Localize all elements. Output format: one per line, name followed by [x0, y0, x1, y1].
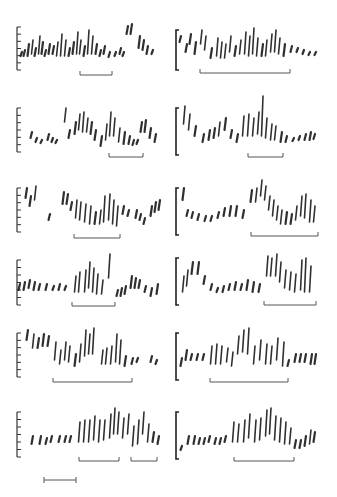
- syllable-mark: [29, 280, 31, 288]
- syllable-mark: [191, 354, 193, 360]
- phrase-bracket: [251, 232, 318, 236]
- syllable-mark: [295, 274, 297, 292]
- syllable-mark: [285, 270, 287, 288]
- syllable-mark: [183, 276, 185, 292]
- syllable-mark: [235, 282, 237, 290]
- syllable-mark: [45, 50, 47, 56]
- syllable-mark: [211, 216, 213, 221]
- syllable-mark: [280, 418, 282, 442]
- sonogram-row-2: [17, 96, 315, 157]
- sonogram-row-4: [17, 254, 316, 306]
- syllable-mark: [110, 414, 112, 438]
- syllable-mark: [310, 430, 312, 444]
- sonogram-row-5: [17, 328, 316, 382]
- syllable-mark: [109, 194, 111, 220]
- syllable-mark: [201, 30, 203, 44]
- syllable-mark: [265, 186, 267, 200]
- syllable-mark: [243, 330, 245, 352]
- syllable-mark: [104, 46, 106, 54]
- syllable-mark: [36, 138, 38, 142]
- syllable-mark: [286, 212, 288, 224]
- syllable-mark: [139, 280, 141, 288]
- syllable-mark: [243, 116, 245, 136]
- syllable-mark: [266, 40, 268, 56]
- sonogram-panel-left: [17, 254, 158, 306]
- panel-bracket: [176, 108, 179, 155]
- panel-bracket: [176, 188, 179, 235]
- syllable-mark: [271, 258, 273, 276]
- syllable-mark: [249, 414, 251, 438]
- syllable-mark: [221, 346, 223, 364]
- syllable-mark: [84, 46, 86, 56]
- syllable-mark: [32, 436, 34, 444]
- syllable-mark: [65, 40, 67, 56]
- syllable-mark: [300, 440, 302, 448]
- syllable-mark: [116, 334, 118, 362]
- syllable-mark: [69, 346, 71, 362]
- syllable-mark: [125, 286, 127, 294]
- syllable-mark: [247, 280, 249, 290]
- syllable-mark: [215, 438, 217, 444]
- syllable-mark: [225, 436, 227, 442]
- syllable-mark: [249, 36, 251, 56]
- syllable-mark: [219, 122, 221, 136]
- syllable-mark: [186, 44, 188, 52]
- syllable-mark: [53, 286, 55, 290]
- syllable-mark: [266, 344, 268, 364]
- syllable-mark: [195, 126, 197, 136]
- syllable-mark: [46, 284, 48, 290]
- syllable-mark: [51, 436, 53, 442]
- syllable-mark: [65, 286, 67, 290]
- syllable-mark: [39, 284, 41, 290]
- phrase-bracket: [131, 457, 157, 461]
- syllable-mark: [237, 134, 239, 142]
- syllable-mark: [70, 436, 72, 442]
- syllable-mark: [209, 436, 211, 442]
- syllable-mark: [135, 278, 137, 288]
- syllable-mark: [100, 50, 102, 56]
- syllable-mark: [255, 420, 257, 442]
- syllable-mark: [69, 48, 71, 56]
- syllable-mark: [266, 118, 268, 138]
- syllable-mark: [123, 52, 125, 56]
- syllable-mark: [245, 32, 247, 54]
- syllable-mark: [151, 206, 153, 216]
- syllable-mark: [267, 256, 269, 276]
- syllable-mark: [60, 350, 62, 364]
- syllable-mark: [248, 328, 250, 354]
- syllable-mark: [220, 438, 222, 444]
- syllable-mark: [80, 40, 82, 54]
- syllable-mark: [218, 212, 220, 218]
- syllable-mark: [26, 188, 28, 198]
- syllable-mark: [71, 202, 73, 210]
- syllable-mark: [244, 420, 246, 442]
- syllable-mark: [275, 126, 277, 140]
- syllable-mark: [198, 262, 200, 274]
- syllable-mark: [21, 52, 23, 56]
- syllable-mark: [34, 282, 36, 290]
- syllable-mark: [80, 344, 82, 362]
- syllable-mark: [152, 50, 154, 54]
- syllable-mark: [57, 42, 59, 56]
- syllable-mark: [67, 194, 69, 204]
- syllable-mark: [243, 210, 245, 218]
- syllable-mark: [314, 432, 316, 442]
- syllable-mark: [111, 346, 113, 364]
- syllable-mark: [295, 440, 297, 448]
- phrase-bracket: [200, 69, 290, 73]
- phrase-bracket: [74, 234, 120, 238]
- syllable-mark: [205, 36, 207, 50]
- syllable-mark: [39, 36, 41, 54]
- syllable-mark: [89, 334, 91, 354]
- syllable-mark: [19, 284, 21, 290]
- sonogram-panel-left: [17, 408, 159, 461]
- syllable-mark: [211, 284, 213, 290]
- sonogram-figure: [0, 0, 337, 497]
- syllable-mark: [153, 432, 155, 442]
- syllable-mark: [310, 132, 312, 140]
- syllable-mark: [65, 342, 67, 360]
- phrase-bracket: [234, 457, 294, 461]
- syllable-mark: [100, 210, 102, 224]
- syllable-mark: [238, 336, 240, 354]
- syllable-mark: [197, 354, 199, 360]
